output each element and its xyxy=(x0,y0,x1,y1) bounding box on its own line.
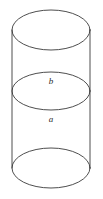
label-a: a xyxy=(49,114,54,124)
label-b: b xyxy=(49,76,54,86)
cylinder-diagram: b a xyxy=(0,0,103,199)
cylinder-figure: b a xyxy=(0,0,103,199)
